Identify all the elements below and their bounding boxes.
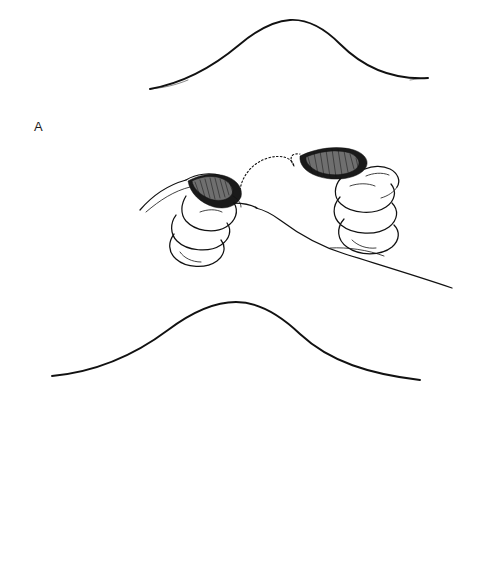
panel-b-artwork: [0, 290, 504, 574]
tunnel-dotted-path-a: [240, 154, 300, 190]
panel-a: A: [0, 0, 504, 290]
surgical-figure: A: [0, 0, 504, 574]
limb-contour-lower: [256, 208, 452, 288]
right-fist: [334, 178, 398, 254]
limb-contour-upper-b-draw: [52, 302, 420, 380]
right-hand-and-incision: [300, 148, 399, 254]
limb-contour-upper: [150, 20, 428, 89]
left-hand-and-incision: [140, 174, 257, 267]
panel-a-artwork: [0, 0, 504, 290]
panel-b: B Retained aneurysm sac End-to-endanasto…: [0, 290, 504, 574]
